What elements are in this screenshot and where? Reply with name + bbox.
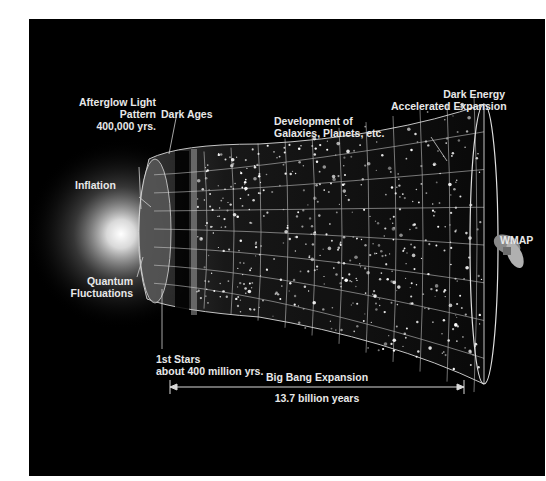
galaxy-dot bbox=[218, 154, 220, 156]
galaxy-dot bbox=[344, 174, 346, 176]
galaxy-dot bbox=[406, 158, 408, 160]
galaxy-dot bbox=[425, 192, 427, 194]
galaxy-dot bbox=[402, 346, 403, 347]
galaxy-dot bbox=[345, 195, 346, 196]
galaxy-dot bbox=[432, 321, 434, 323]
galaxy-dot bbox=[227, 280, 229, 282]
galaxy-dot bbox=[450, 241, 452, 243]
galaxy-dot bbox=[255, 246, 257, 248]
galaxy-dot bbox=[343, 189, 347, 193]
galaxy-dot bbox=[424, 308, 425, 309]
galaxy-dot bbox=[388, 166, 392, 170]
galaxy-dot bbox=[221, 227, 222, 228]
galaxy-dot bbox=[233, 213, 237, 217]
galaxy-dot bbox=[441, 333, 442, 334]
galaxy-dot bbox=[335, 273, 337, 275]
galaxy-dot bbox=[300, 145, 302, 147]
galaxy-dot bbox=[392, 281, 396, 285]
galaxy-dot bbox=[392, 222, 393, 223]
galaxy-dot bbox=[251, 287, 252, 288]
galaxy-dot bbox=[311, 233, 312, 234]
galaxy-dot bbox=[390, 302, 392, 304]
galaxy-dot bbox=[455, 182, 456, 183]
galaxy-dot bbox=[208, 189, 209, 190]
galaxy-dot bbox=[243, 283, 245, 285]
galaxy-dot bbox=[391, 270, 393, 272]
galaxy-dot bbox=[349, 259, 351, 261]
galaxy-dot bbox=[420, 183, 422, 185]
galaxy-dot bbox=[443, 351, 444, 352]
galaxy-dot bbox=[386, 278, 389, 281]
galaxy-dot bbox=[384, 342, 388, 346]
galaxy-dot bbox=[237, 286, 238, 287]
galaxy-dot bbox=[396, 290, 397, 291]
galaxy-dot bbox=[376, 170, 377, 171]
galaxy-dot bbox=[298, 321, 301, 324]
galaxy-dot bbox=[443, 250, 445, 252]
galaxy-dot bbox=[258, 175, 260, 177]
galaxy-dot bbox=[237, 305, 239, 307]
galaxy-dot bbox=[254, 165, 255, 166]
galaxy-dot bbox=[393, 338, 397, 342]
galaxy-dot bbox=[416, 189, 418, 191]
galaxy-dot bbox=[399, 233, 403, 237]
galaxy-dot bbox=[379, 278, 381, 280]
galaxy-dot bbox=[222, 198, 223, 199]
galaxy-dot bbox=[397, 285, 401, 289]
galaxy-dot bbox=[455, 314, 456, 315]
galaxy-dot bbox=[444, 226, 445, 227]
galaxy-dot bbox=[224, 189, 226, 191]
galaxy-dot bbox=[295, 173, 296, 174]
galaxy-dot bbox=[467, 116, 471, 120]
galaxy-dot bbox=[319, 255, 320, 256]
galaxy-dot bbox=[443, 319, 445, 321]
galaxy-dot bbox=[476, 157, 478, 159]
galaxy-dot bbox=[445, 354, 447, 356]
galaxy-dot bbox=[465, 232, 468, 235]
label-dark-ages: Dark Ages bbox=[161, 108, 213, 120]
galaxy-dot bbox=[281, 285, 283, 287]
galaxy-dot bbox=[428, 243, 430, 245]
galaxy-dot bbox=[267, 145, 269, 147]
galaxy-dot bbox=[289, 290, 290, 291]
galaxy-dot bbox=[248, 194, 250, 196]
galaxy-dot bbox=[433, 215, 435, 217]
galaxy-dot bbox=[390, 280, 393, 283]
galaxy-dot bbox=[373, 294, 377, 298]
galaxy-dot bbox=[273, 151, 275, 153]
galaxy-dot bbox=[462, 336, 464, 338]
galaxy-dot bbox=[289, 282, 291, 284]
galaxy-dot bbox=[439, 202, 441, 204]
galaxy-dot bbox=[456, 317, 457, 318]
galaxy-dot bbox=[304, 286, 307, 289]
galaxy-dot bbox=[379, 298, 381, 300]
galaxy-dot bbox=[205, 177, 208, 180]
galaxy-dot bbox=[228, 248, 230, 250]
galaxy-dot bbox=[219, 283, 221, 285]
galaxy-dot bbox=[396, 326, 398, 328]
galaxy-dot bbox=[207, 164, 209, 166]
galaxy-dot bbox=[328, 191, 330, 193]
galaxy-dot bbox=[267, 269, 268, 270]
galaxy-dot bbox=[307, 204, 308, 205]
galaxy-dot bbox=[381, 272, 383, 274]
galaxy-dot bbox=[364, 164, 366, 166]
galaxy-dot bbox=[258, 173, 260, 175]
galaxy-dot bbox=[343, 236, 346, 239]
galaxy-dot bbox=[465, 313, 467, 315]
galaxy-dot bbox=[433, 164, 435, 166]
galaxy-dot bbox=[226, 210, 228, 212]
galaxy-dot bbox=[363, 209, 365, 211]
galaxy-dot bbox=[362, 178, 364, 180]
galaxy-dot bbox=[459, 195, 461, 197]
galaxy-dot bbox=[343, 157, 345, 159]
galaxy-dot bbox=[479, 221, 481, 223]
galaxy-dot bbox=[409, 229, 410, 230]
galaxy-dot bbox=[279, 298, 281, 300]
galaxy-dot bbox=[410, 295, 412, 297]
galaxy-dot bbox=[236, 157, 237, 158]
galaxy-dot bbox=[393, 239, 395, 241]
galaxy-dot bbox=[227, 202, 228, 203]
galaxy-dot bbox=[308, 290, 309, 291]
galaxy-dot bbox=[466, 130, 468, 132]
